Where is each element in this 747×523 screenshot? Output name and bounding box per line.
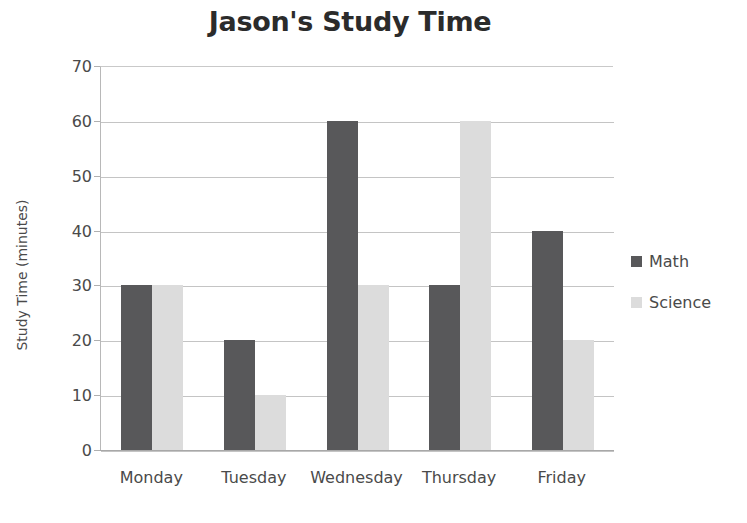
y-tick-label: 70: [52, 57, 92, 76]
legend-label: Science: [649, 293, 711, 312]
plot-area: [100, 66, 613, 450]
bar-group: [532, 66, 594, 450]
bar-math-thursday: [429, 285, 460, 450]
y-tick-label: 20: [52, 331, 92, 350]
legend-swatch-icon: [631, 256, 642, 267]
bar-group: [121, 66, 183, 450]
bar-science-monday: [152, 285, 183, 450]
bar-math-tuesday: [224, 340, 255, 450]
x-tick-label: Thursday: [422, 468, 496, 487]
bar-group: [429, 66, 491, 450]
x-tick-label: Wednesday: [310, 468, 403, 487]
bar-science-wednesday: [358, 285, 389, 450]
x-tick-label: Tuesday: [221, 468, 286, 487]
y-tick-label: 30: [52, 276, 92, 295]
y-axis-tick-labels: 010203040506070: [48, 66, 92, 450]
y-tick-label: 40: [52, 222, 92, 241]
bar-group: [224, 66, 286, 450]
legend-label: Math: [649, 252, 689, 271]
bar-math-friday: [532, 231, 563, 450]
chart-title: Jason's Study Time: [0, 6, 700, 37]
x-axis-line: [100, 450, 614, 451]
bar-group: [327, 66, 389, 450]
x-tick-label: Monday: [120, 468, 183, 487]
x-axis-tick-labels: MondayTuesdayWednesdayThursdayFriday: [100, 468, 613, 498]
y-tick-label: 0: [52, 441, 92, 460]
gridline: [101, 451, 614, 452]
bar-math-wednesday: [327, 121, 358, 450]
y-axis-title: Study Time (minutes): [14, 170, 30, 380]
y-tick-label: 50: [52, 167, 92, 186]
y-tick-label: 10: [52, 386, 92, 405]
legend-item-science[interactable]: Science: [631, 293, 711, 312]
bar-science-friday: [563, 340, 594, 450]
chart-legend: MathScience: [631, 252, 711, 334]
bar-science-tuesday: [255, 395, 286, 450]
legend-item-math[interactable]: Math: [631, 252, 711, 271]
y-tick-label: 60: [52, 112, 92, 131]
legend-swatch-icon: [631, 297, 642, 308]
bar-science-thursday: [460, 121, 491, 450]
x-tick-label: Friday: [537, 468, 586, 487]
bar-math-monday: [121, 285, 152, 450]
